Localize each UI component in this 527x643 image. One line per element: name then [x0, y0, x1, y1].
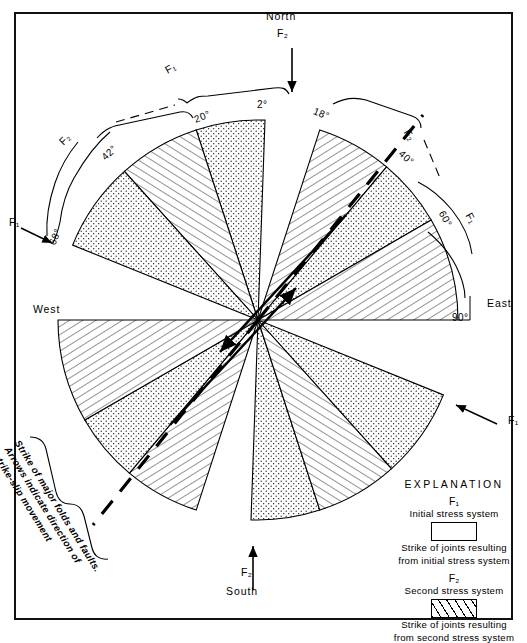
- legend-swatch-dotted: [431, 522, 477, 541]
- label-stress-f1-lower-right: F₁: [508, 414, 519, 426]
- legend-swatch-hatched: [431, 599, 477, 618]
- bracket-left-outer: [47, 142, 78, 236]
- legend-title: EXPLANATION: [386, 478, 522, 490]
- angle-label-90: 90°: [452, 312, 469, 324]
- bracket-right-f2: [333, 98, 421, 128]
- label-stress-south: F₂: [241, 566, 252, 578]
- label-south: South: [226, 585, 258, 597]
- label-north: North: [266, 10, 296, 22]
- label-east: East: [487, 297, 512, 309]
- legend-f2-text: Second stress system: [386, 585, 522, 596]
- legend-hatched-desc-2: from second stress system: [386, 632, 522, 643]
- bracket-left-f2: [97, 112, 193, 138]
- legend-hatched-desc-1: Strike of joints resulting: [386, 619, 522, 630]
- legend-f1-text: Initial stress system: [386, 508, 522, 519]
- label-stress-north: F₂: [277, 27, 288, 39]
- bracket-dash-right: [424, 140, 440, 178]
- legend-f2-symbol: F₂: [386, 572, 522, 584]
- bracket-top-f1: [178, 88, 289, 103]
- legend-dotted-desc-2: from initial stress system: [386, 555, 522, 566]
- legend-f1-symbol: F₁: [386, 495, 522, 507]
- label-stress-west: F₁: [9, 216, 20, 228]
- legend-dotted-desc-1: Strike of joints resulting: [386, 542, 522, 553]
- angle-label-2: 2°: [257, 99, 268, 111]
- stress-arrow-f1-lower-right: [456, 405, 497, 424]
- explanation-legend: EXPLANATION F₁ Initial stress system Str…: [386, 478, 522, 643]
- label-west: West: [33, 303, 60, 315]
